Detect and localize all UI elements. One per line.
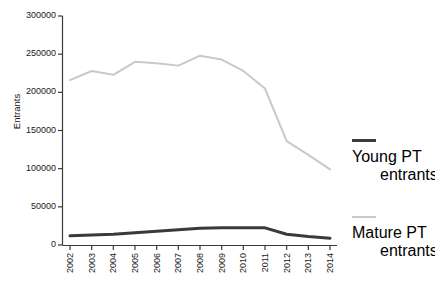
legend-label-young-line1: Young PT (352, 148, 422, 166)
axis-lines (63, 16, 338, 246)
series-line-mature-pt-entrants (70, 56, 330, 170)
chart-figure: Entrants 0500001000001500002000002500003… (0, 0, 435, 286)
legend-label-mature-line1: Mature PT (352, 224, 427, 242)
legend-item-mature: Mature PT entrants (352, 206, 435, 260)
legend-swatch-young (352, 139, 376, 142)
x-axis-ticks (70, 246, 330, 251)
legend-item-young: Young PT entrants (352, 130, 435, 184)
legend: Young PT entrants Mature PT entrants (352, 130, 435, 282)
legend-label-young-line2: entrants (380, 166, 435, 184)
legend-swatch-mature (352, 216, 376, 218)
series-lines (70, 56, 330, 238)
y-axis-ticks (58, 16, 63, 245)
series-line-young-pt-entrants (70, 228, 330, 238)
legend-label-mature-line2: entrants (380, 242, 435, 260)
